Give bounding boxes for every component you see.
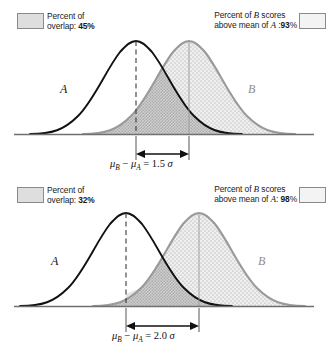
curve-label-b-top: B — [248, 82, 255, 97]
legend-above-line2-top: above mean of A :93% — [214, 21, 297, 31]
legend-above-percent-top: % — [290, 20, 297, 30]
sigma-symbol-top: σ — [165, 158, 173, 169]
effect-size-caption-top: μB − μA = 1.5 σ — [110, 158, 173, 172]
distribution-panel-bottom: Percent of overlap: 32% Percent of B sco… — [0, 174, 328, 348]
legend-above-prefix2-bottom: above mean of — [214, 194, 270, 204]
cut-off-caption-strip — [0, 337, 328, 348]
legend-above-bottom: Percent of B scores above mean of A: 98% — [214, 185, 326, 204]
overlap-distributions-figure: Percent of overlap: 45% Percent of B sco… — [0, 0, 328, 348]
distribution-panel-top: Percent of overlap: 45% Percent of B sco… — [0, 0, 328, 174]
effect-size-arrow — [136, 150, 189, 158]
legend-above-text-top: Percent of B scores above mean of A :93% — [214, 11, 297, 30]
legend-above-line2-bottom: above mean of A: 98% — [214, 195, 297, 205]
legend-overlap-value-bottom: 32% — [78, 195, 94, 205]
overlap-swatch-icon — [17, 13, 44, 29]
legend-overlap-value-top: 45% — [78, 21, 94, 31]
legend-overlap-line2-top: overlap: 45% — [47, 22, 95, 32]
legend-above-prefix2-top: above mean of — [214, 20, 270, 30]
above-mean-swatch-icon — [299, 13, 326, 29]
curve-label-a-bottom: A — [51, 254, 58, 269]
legend-above-value-top: 93 — [281, 20, 290, 30]
overlap-swatch-icon — [17, 187, 44, 203]
legend-above-percent-bottom: % — [290, 194, 297, 204]
legend-above-text-bottom: Percent of B scores above mean of A: 98% — [214, 185, 297, 204]
legend-overlap-line2-bottom: overlap: 32% — [47, 196, 95, 206]
legend-above-prefix-top: Percent of — [214, 10, 253, 20]
legend-overlap-top: Percent of overlap: 45% — [17, 12, 95, 31]
legend-above-top: Percent of B scores above mean of A :93% — [214, 11, 326, 30]
above-mean-swatch-icon — [299, 187, 326, 203]
legend-overlap-prefix-bottom: overlap: — [47, 195, 78, 205]
legend-overlap-text-top: Percent of overlap: 45% — [47, 12, 95, 31]
curve-label-b-bottom: B — [258, 254, 265, 269]
legend-above-suffix-top: scores — [259, 10, 285, 20]
legend-above-suffix-bottom: scores — [259, 184, 285, 194]
legend-overlap-bottom: Percent of overlap: 32% — [17, 186, 95, 205]
legend-overlap-prefix-top: overlap: — [47, 21, 78, 31]
curve-label-a-top: A — [60, 82, 67, 97]
minus-symbol-top: − — [120, 158, 131, 169]
legend-above-prefix-bottom: Percent of — [214, 184, 253, 194]
legend-overlap-text-bottom: Percent of overlap: 32% — [47, 186, 95, 205]
equals-symbol-top: = — [141, 158, 152, 169]
effect-size-arrow — [126, 322, 199, 330]
legend-above-value-bottom: 98 — [281, 194, 290, 204]
effect-value-top: 1.5 — [152, 158, 165, 169]
